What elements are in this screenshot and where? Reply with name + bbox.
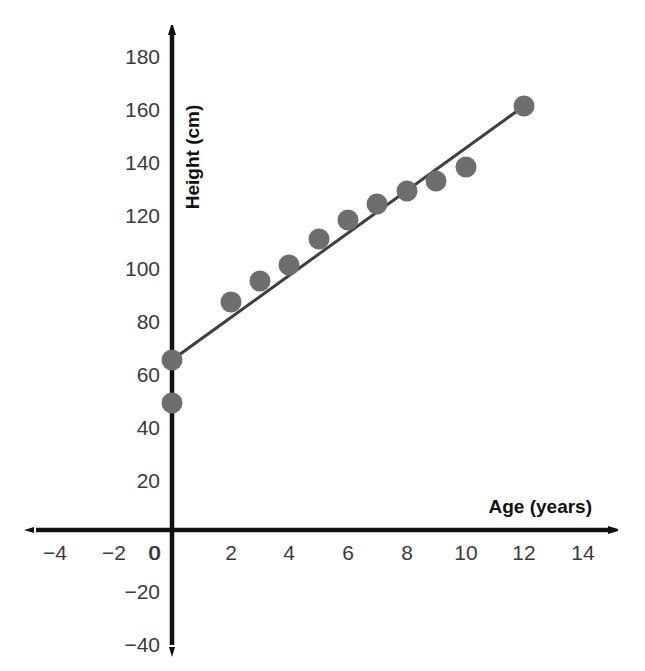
data-point [338, 210, 359, 231]
data-point [162, 393, 183, 414]
data-point [309, 229, 330, 250]
y-tick-label: 100 [125, 257, 160, 280]
x-tick-label: 10 [454, 541, 477, 564]
data-point [250, 271, 271, 292]
scatter-plot: 180 160 140 120 100 80 60 40 20 0 −20 −4… [0, 0, 645, 671]
x-tick-label: 0 [149, 541, 161, 564]
chart-canvas: 180 160 140 120 100 80 60 40 20 0 −20 −4… [0, 0, 645, 671]
x-tick-label: 6 [342, 541, 354, 564]
x-tick-label: 2 [225, 541, 237, 564]
y-tick-label: 80 [137, 310, 160, 333]
y-tick-label: 140 [125, 151, 160, 174]
y-tick-label: 120 [125, 204, 160, 227]
data-point [514, 96, 535, 117]
y-tick-label: −40 [124, 633, 160, 656]
x-tick-label: −4 [43, 541, 67, 564]
data-point [456, 157, 477, 178]
x-tick-label: 14 [571, 541, 595, 564]
y-tick-label: 20 [137, 469, 160, 492]
x-tick-label: 12 [512, 541, 535, 564]
x-axis-title: Age (years) [489, 496, 593, 517]
x-tick-label: 4 [283, 541, 295, 564]
y-tick-label: 160 [125, 98, 160, 121]
y-tick-labels: 180 160 140 120 100 80 60 40 20 0 −20 −4… [124, 45, 160, 656]
data-point [221, 292, 242, 313]
y-tick-label: 180 [125, 45, 160, 68]
y-tick-label: −20 [124, 580, 160, 603]
trend-line [172, 106, 524, 360]
data-point [367, 194, 388, 215]
data-point [426, 171, 447, 192]
y-tick-label: 60 [137, 363, 160, 386]
data-point [162, 350, 183, 371]
y-tick-label: 40 [137, 416, 160, 439]
x-tick-label: 8 [401, 541, 413, 564]
x-tick-label: −2 [102, 541, 126, 564]
x-tick-labels: −4 −2 0 2 4 6 8 10 12 14 [43, 541, 595, 564]
data-points-group [162, 96, 535, 414]
y-axis-title: Height (cm) [182, 105, 203, 210]
data-point [279, 255, 300, 276]
data-point [397, 181, 418, 202]
